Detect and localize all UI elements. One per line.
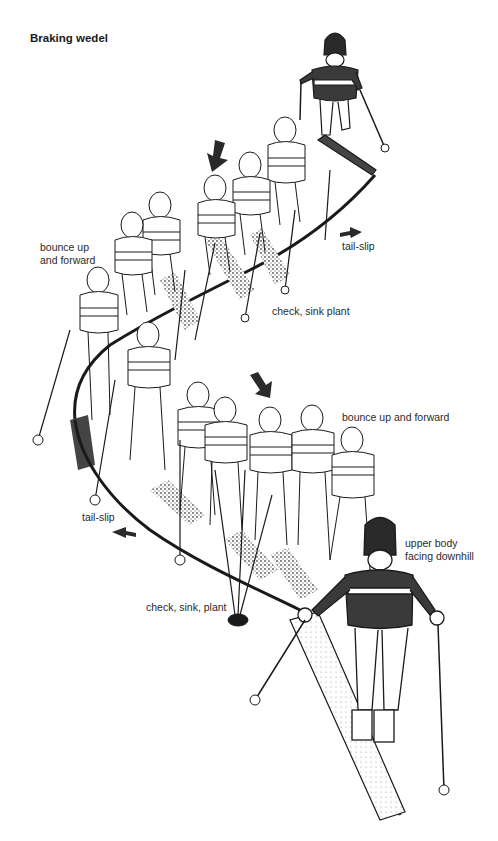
- label-bounce-up-top-line2: and forward: [40, 254, 95, 267]
- label-tail-slip-top: tail-slip: [342, 240, 375, 253]
- arrow-down-icon: [207, 140, 228, 172]
- arrow-down-right-icon: [250, 372, 272, 398]
- label-check-sink-plant-top: check, sink plant: [272, 305, 350, 318]
- arrow-right-icon: [340, 227, 362, 238]
- label-upper-body: upper body facing downhill: [405, 537, 474, 563]
- label-bounce-up-top: bounce up and forward: [40, 241, 95, 267]
- skier-top: [300, 33, 385, 175]
- label-upper-body-line2: facing downhill: [405, 550, 474, 563]
- diagram-title: Braking wedel: [30, 32, 108, 44]
- illustration-canvas: Braking wedel bounce up and forward tail…: [0, 0, 498, 841]
- arrow-left-icon: [112, 527, 136, 538]
- label-check-sink-plant-bottom: check, sink, plant: [146, 601, 227, 614]
- label-bounce-up-top-line1: bounce up: [40, 241, 95, 254]
- label-tail-slip-bottom: tail-slip: [82, 511, 115, 524]
- label-bounce-up-bottom: bounce up and forward: [342, 411, 449, 424]
- label-upper-body-line1: upper body: [405, 537, 474, 550]
